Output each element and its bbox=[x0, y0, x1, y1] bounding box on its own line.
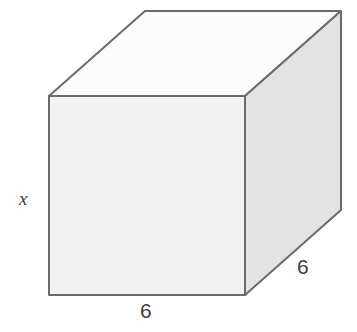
figure-root: x 6 6 bbox=[0, 0, 357, 332]
cube-diagram bbox=[0, 0, 357, 332]
width-label-6: 6 bbox=[140, 300, 152, 321]
depth-label-6: 6 bbox=[297, 256, 309, 277]
height-label-x: x bbox=[19, 189, 28, 208]
cube-front-face bbox=[49, 96, 245, 295]
